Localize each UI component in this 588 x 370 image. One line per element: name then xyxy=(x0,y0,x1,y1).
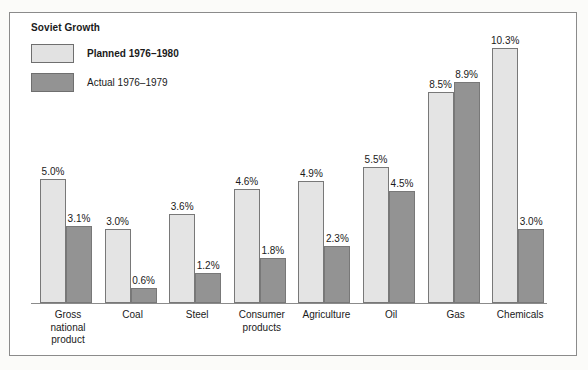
bar xyxy=(428,92,454,303)
bar-value-label: 1.2% xyxy=(188,260,228,271)
bar-group: 8.5%8.9%Gas xyxy=(423,0,488,370)
bar-value-label: 2.3% xyxy=(317,233,357,244)
bar-value-label: 4.5% xyxy=(382,178,422,189)
bar-value-label: 10.3% xyxy=(485,35,525,46)
category-label: Consumerproducts xyxy=(225,309,299,334)
category-label: Oil xyxy=(354,309,428,322)
bar-value-label: 8.9% xyxy=(447,69,487,80)
bar xyxy=(260,258,286,303)
bar-value-label: 5.5% xyxy=(356,154,396,165)
bar-value-label: 3.6% xyxy=(162,201,202,212)
bar-group: 4.9%2.3%Agriculture xyxy=(293,0,358,370)
bar xyxy=(492,48,518,303)
plot-area: 5.0%3.1%Grossnationalproduct3.0%0.6%Coal… xyxy=(0,0,588,370)
bar-value-label: 3.0% xyxy=(511,216,551,227)
bar-value-label: 1.8% xyxy=(253,245,293,256)
bar-value-label: 4.6% xyxy=(227,176,267,187)
bar-group: 3.0%0.6%Coal xyxy=(100,0,165,370)
category-label: Coal xyxy=(96,309,170,322)
bar xyxy=(169,214,195,303)
bar-group: 4.6%1.8%Consumerproducts xyxy=(229,0,294,370)
category-label: Grossnationalproduct xyxy=(31,309,105,347)
bar xyxy=(195,273,221,303)
bar-group: 5.0%3.1%Grossnationalproduct xyxy=(35,0,100,370)
bar-group: 10.3%3.0%Chemicals xyxy=(487,0,552,370)
bar xyxy=(105,229,131,303)
category-label: Agriculture xyxy=(289,309,363,322)
bar xyxy=(131,288,157,303)
category-label: Gas xyxy=(419,309,493,322)
chart-figure: Soviet Growth Planned 1976–1980 Actual 1… xyxy=(0,0,588,370)
bar xyxy=(40,179,66,303)
category-label: Chemicals xyxy=(483,309,557,322)
bar xyxy=(389,191,415,303)
bar-value-label: 0.6% xyxy=(124,275,164,286)
bar-group: 5.5%4.5%Oil xyxy=(358,0,423,370)
bar-value-label: 5.0% xyxy=(33,166,73,177)
category-label: Steel xyxy=(160,309,234,322)
bar xyxy=(518,229,544,303)
bar-value-label: 3.1% xyxy=(59,213,99,224)
bar-value-label: 3.0% xyxy=(98,216,138,227)
bar xyxy=(454,82,480,303)
bar xyxy=(66,226,92,303)
bar xyxy=(324,246,350,303)
bar-group: 3.6%1.2%Steel xyxy=(164,0,229,370)
bar-value-label: 4.9% xyxy=(291,168,331,179)
